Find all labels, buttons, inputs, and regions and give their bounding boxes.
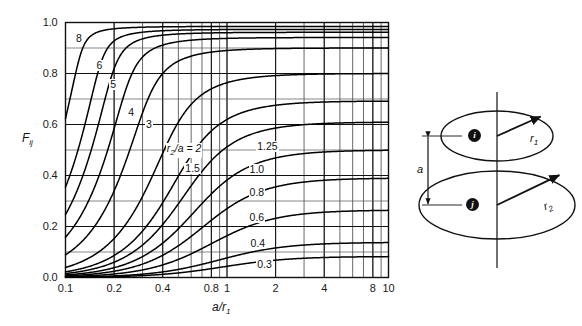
x-tick-label: 10 bbox=[376, 282, 402, 294]
radius-r1-label: r1 bbox=[530, 132, 538, 147]
curve-label: 0.8 bbox=[249, 187, 266, 198]
x-tick-label: 0.2 bbox=[101, 282, 127, 294]
curve-label: 3 bbox=[145, 119, 153, 130]
disks-group bbox=[419, 92, 575, 268]
parameter-key-label: r2/a = 2 bbox=[166, 143, 203, 158]
curve-label: 0.4 bbox=[250, 238, 267, 249]
curve-label: 0.3 bbox=[256, 259, 273, 270]
x-tick-label: 2 bbox=[263, 282, 289, 294]
x-tick-label: 4 bbox=[311, 282, 337, 294]
curve-label: 1.25 bbox=[256, 141, 278, 152]
lower-disk-marker: j bbox=[466, 198, 479, 211]
curve-label: 4 bbox=[127, 107, 135, 118]
curve-label: 8 bbox=[75, 33, 83, 44]
x-tick-label: 0.4 bbox=[150, 282, 176, 294]
upper-disk-marker: i bbox=[468, 129, 481, 142]
curve-label: 1.5 bbox=[184, 163, 201, 174]
curve-label: 1.0 bbox=[249, 164, 266, 175]
curve-label: 6 bbox=[96, 60, 104, 71]
x-tick-label: 0.1 bbox=[53, 282, 79, 294]
figure-root: 0.0 0.2 0.4 0.6 0.8 1.0 Fij a/r1 i j r1 … bbox=[0, 0, 582, 326]
coaxial-disks-diagram bbox=[0, 0, 582, 326]
curve-label: 0.6 bbox=[249, 212, 266, 223]
separation-a-label: a bbox=[417, 163, 423, 175]
curve-label: 5 bbox=[109, 79, 117, 90]
x-tick-label: 1 bbox=[214, 282, 240, 294]
